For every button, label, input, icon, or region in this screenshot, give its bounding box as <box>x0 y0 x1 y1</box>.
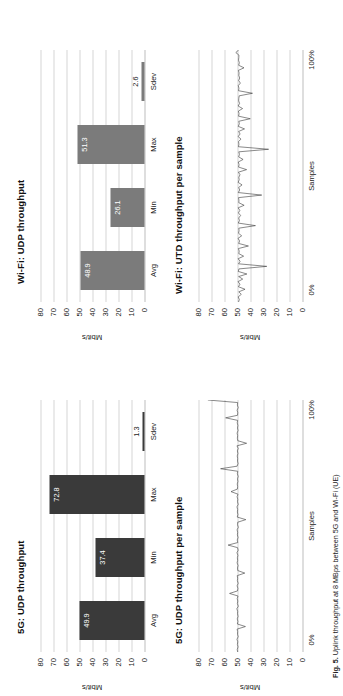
x-tick-label: 100% <box>306 398 315 422</box>
y-tick-label: 70 <box>49 308 58 328</box>
x-tick-label: 0% <box>306 628 315 652</box>
y-tick-label: 80 <box>36 308 45 328</box>
bar-sdev-value-label: 2.6 <box>130 62 139 101</box>
bar-value-label: 49.9 <box>81 601 90 640</box>
y-tick-label: 70 <box>49 658 58 678</box>
y-tick-label: 60 <box>62 308 71 328</box>
bar-min: 37.4 <box>95 538 144 577</box>
y-tick-label: 50 <box>75 308 84 328</box>
bar-value-label: 72.8 <box>51 475 60 514</box>
y-axis-label: Mbit/s <box>233 333 267 342</box>
y-tick-label: 20 <box>272 308 281 328</box>
y-tick-label: 30 <box>101 308 110 328</box>
y-tick-label: 40 <box>88 658 97 678</box>
y-tick-label: 30 <box>259 308 268 328</box>
y-tick-label: 20 <box>114 308 123 328</box>
y-tick-label: 10 <box>285 658 294 678</box>
y-tick-label: 60 <box>62 658 71 678</box>
y-axis-label: Mbit/s <box>233 683 267 692</box>
y-tick-label: 0 <box>298 308 307 328</box>
bar-value-label: 51.3 <box>79 125 88 164</box>
chart-title: 5G: UDP throughput <box>14 541 25 634</box>
y-tick-label: 10 <box>285 308 294 328</box>
bar-value-label: 48.9 <box>82 251 91 290</box>
x-tick-sdev: Sdev <box>148 50 157 113</box>
bar-min: 26.1 <box>110 188 144 227</box>
y-tick-label: 40 <box>246 308 255 328</box>
y-tick-label: 70 <box>207 658 216 678</box>
x-tick-label: 100% <box>306 48 315 72</box>
x-axis-label: Samples <box>306 146 315 206</box>
x-tick-min: Min <box>148 176 157 239</box>
bar-avg: 48.9 <box>80 251 144 290</box>
figure-caption: Fig. 5. Uplink throughput at 8 MBps betw… <box>330 474 339 678</box>
gridline-80 <box>40 400 41 652</box>
y-axis-label: Mbit/s <box>75 333 109 342</box>
y-tick-label: 0 <box>140 308 149 328</box>
y-tick-label: 50 <box>233 658 242 678</box>
chart-title: Wi-Fi: UDP throughput <box>14 180 25 284</box>
x-tick-sdev: Sdev <box>148 400 157 463</box>
y-tick-label: 30 <box>101 658 110 678</box>
x-tick-avg: Avg <box>148 239 157 302</box>
x-tick-max: Max <box>148 463 157 526</box>
y-tick-label: 80 <box>36 658 45 678</box>
y-tick-label: 40 <box>246 658 255 678</box>
y-tick-label: 40 <box>88 308 97 328</box>
bar-value-label: 37.4 <box>97 538 106 577</box>
y-tick-label: 80 <box>194 308 203 328</box>
bar-avg: 49.9 <box>79 601 144 640</box>
x-axis-label: Samples <box>306 496 315 556</box>
y-tick-label: 50 <box>233 308 242 328</box>
series-line <box>198 50 302 302</box>
gridline-50 <box>79 50 80 302</box>
y-tick-label: 50 <box>75 658 84 678</box>
bar-sdev <box>142 412 145 451</box>
y-tick-label: 80 <box>194 658 203 678</box>
y-tick-label: 60 <box>220 308 229 328</box>
bar-value-label: 26.1 <box>112 188 121 227</box>
figure-caption-text: Uplink throughput at 8 MBps between 5G a… <box>330 474 339 655</box>
series-line <box>198 400 302 652</box>
gridline-60 <box>66 50 67 302</box>
x-tick-min: Min <box>148 526 157 589</box>
y-tick-label: 0 <box>298 658 307 678</box>
figure-caption-number: Fig. 5. <box>330 657 339 678</box>
gridline-80 <box>40 50 41 302</box>
y-tick-label: 70 <box>207 308 216 328</box>
y-tick-label: 10 <box>127 658 136 678</box>
y-tick-label: 30 <box>259 658 268 678</box>
y-tick-label: 20 <box>272 658 281 678</box>
y-tick-label: 20 <box>114 658 123 678</box>
gridline-60 <box>66 400 67 652</box>
y-tick-label: 60 <box>220 658 229 678</box>
chart-title: Wi-Fi: UTD throughput per sample <box>172 136 183 294</box>
bar-sdev-value-label: 1.3 <box>131 412 140 451</box>
chart-title: 5G: UDP throughput per sample <box>172 497 183 644</box>
x-tick-max: Max <box>148 113 157 176</box>
bar-max: 72.8 <box>49 475 144 514</box>
gridline-70 <box>53 400 54 652</box>
bar-max: 51.3 <box>77 125 144 164</box>
figure-stage: 80706050403020100Mbit/s5G: UDP throughpu… <box>0 0 343 696</box>
bar-sdev <box>141 62 144 101</box>
gridline-70 <box>53 50 54 302</box>
y-tick-label: 0 <box>140 658 149 678</box>
y-axis-label: Mbit/s <box>75 683 109 692</box>
x-tick-avg: Avg <box>148 589 157 652</box>
y-tick-label: 10 <box>127 308 136 328</box>
x-tick-label: 0% <box>306 278 315 302</box>
